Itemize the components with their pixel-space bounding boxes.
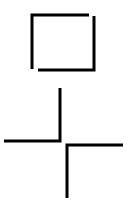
lower-corner-stroke [67, 145, 123, 198]
upper-corner [4, 88, 60, 141]
open-square [32, 15, 94, 70]
open-square-bottom-right-stroke [38, 16, 94, 70]
lower-corner [67, 145, 123, 198]
upper-corner-stroke [4, 88, 60, 141]
open-square-top-left-stroke [32, 15, 89, 69]
diagram-canvas [0, 0, 134, 202]
